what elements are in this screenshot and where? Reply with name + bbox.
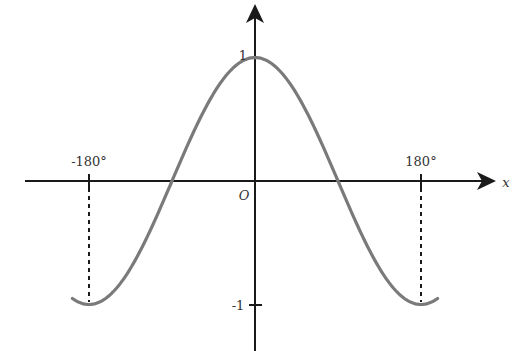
tick-label-y1: 1: [239, 48, 247, 63]
tick-label-neg180: -180°: [71, 154, 107, 169]
cosine-graph: -180° 180° 1 -1 O x: [0, 0, 516, 351]
origin-label: O: [239, 188, 250, 203]
tick-label-y-neg1: -1: [232, 298, 245, 313]
tick-label-pos180: 180°: [405, 154, 436, 169]
x-axis-label: x: [502, 175, 510, 190]
